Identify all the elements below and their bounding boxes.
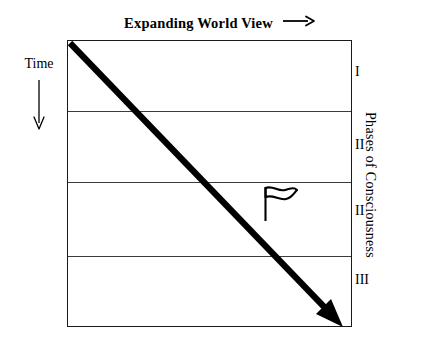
diagram-canvas: Expanding World View Time I (0, 0, 425, 346)
band-divider (68, 111, 351, 112)
band-divider (68, 256, 351, 257)
band-numeral: I (355, 64, 389, 80)
diagram-title-text: Expanding World View (124, 15, 273, 32)
flag-icon (259, 184, 301, 224)
band-numeral: III (355, 272, 389, 288)
diagram-title: Expanding World View (120, 12, 320, 34)
phases-axis-caption: Phases of Consciousness (362, 112, 378, 258)
down-arrow-icon (11, 79, 67, 135)
band-divider (68, 182, 351, 183)
time-axis: Time (11, 57, 67, 135)
right-arrow-icon (282, 14, 316, 32)
phases-box (67, 40, 352, 327)
time-axis-label: Time (11, 57, 67, 71)
